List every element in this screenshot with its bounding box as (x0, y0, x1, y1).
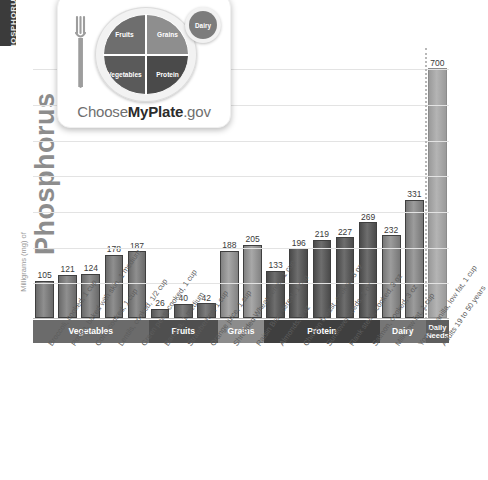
bar-value-label: 188 (222, 241, 236, 250)
plate-segment-protein: Protein (146, 55, 189, 96)
section-tab-label: PHOSPHORUS (9, 0, 16, 46)
section-tab-phosphorus[interactable]: PHOSPHORUS (0, 0, 16, 46)
gridline (33, 176, 449, 177)
plate-segment-vegetables: Vegetables (103, 55, 146, 96)
bar-value-label: 196 (292, 239, 306, 248)
plate-segment-dairy: Dairy (189, 11, 217, 39)
bar-value-label: 227 (338, 228, 352, 237)
plate-segment-protein-label: Protein (156, 71, 179, 78)
bar-value-label: 269 (361, 213, 375, 222)
wordmark-bold: MyPlate (128, 103, 183, 120)
plate-segment-vegetables-label: Vegetables (107, 71, 141, 78)
plate-quadrants: Fruits Grains Vegetables Protein (103, 14, 189, 95)
bar-slot[interactable]: 219 (310, 48, 333, 318)
bar-value-label: 700 (430, 59, 444, 68)
wordmark-prefix: Choose (77, 103, 128, 120)
bar-value-label: 124 (84, 264, 98, 273)
plate-graphic: Fruits Grains Vegetables Protein (95, 7, 197, 102)
gridline (33, 212, 449, 213)
bar-slot[interactable]: 205 (241, 48, 264, 318)
wordmark-suffix: .gov (183, 103, 211, 120)
bar-value-label: 121 (61, 265, 75, 274)
plate-segment-grains: Grains (146, 14, 189, 55)
bar-value-label: 105 (37, 271, 51, 280)
bar-value-label: 178 (107, 245, 121, 254)
bar-value-label: 331 (407, 190, 421, 199)
bar-value-label: 133 (269, 261, 283, 270)
bar-value-label: 205 (245, 235, 259, 244)
bar-slot[interactable]: 105 (33, 48, 56, 318)
y-axis-subtitle: Milligrams (mg) of (16, 182, 30, 342)
plate-segment-fruits: Fruits (103, 14, 146, 55)
gridline (33, 248, 449, 249)
plate-dairy-cup: Dairy (185, 7, 221, 43)
bar[interactable] (35, 281, 54, 318)
bar-slot[interactable]: 700 (426, 48, 449, 318)
daily-needs-divider (425, 48, 427, 319)
plate-segment-grains-label: Grains (157, 31, 178, 38)
gridline (33, 141, 449, 142)
bar-value-label: 219 (315, 230, 329, 239)
myplate-logo: Fruits Grains Vegetables Protein Dairy C… (57, 0, 231, 128)
bar-slot[interactable]: 269 (357, 48, 380, 318)
bar-value-label: 232 (384, 226, 398, 235)
bar-slot[interactable]: 331 (403, 48, 426, 318)
x-axis-labels: Broccoli, cooked, 1 cupPotato, baked wit… (33, 343, 449, 480)
fork-icon (75, 15, 86, 88)
plate-segment-fruits-label: Fruits (115, 31, 133, 38)
myplate-wordmark: ChooseMyPlate.gov (58, 103, 230, 120)
plate-segment-dairy-label: Dairy (195, 22, 211, 29)
